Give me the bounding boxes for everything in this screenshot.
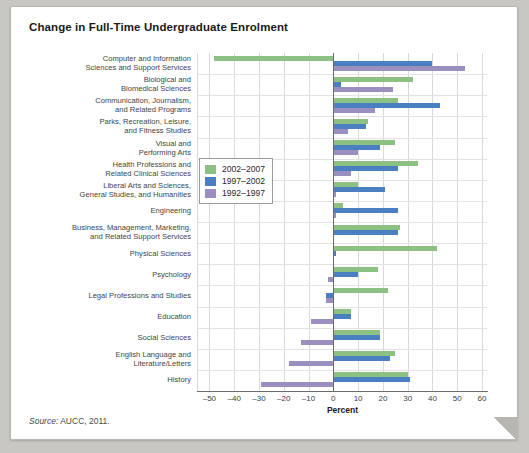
y-axis-label: History: [41, 375, 191, 384]
y-axis-label-line: Sciences and Support Services: [41, 63, 191, 72]
y-axis-label: Education: [41, 312, 191, 321]
row-separator: [197, 74, 487, 75]
y-axis-label-line: Literature/Letters: [41, 359, 191, 368]
bar: [333, 208, 397, 213]
y-axis-label-line: Health Professions and: [41, 160, 191, 169]
bar: [333, 377, 410, 382]
bar: [289, 361, 334, 366]
y-axis-label-line: Performing Arts: [41, 148, 191, 157]
row-separator: [197, 349, 487, 350]
y-axis-label-line: Business, Management, Marketing,: [41, 223, 191, 232]
y-axis-label: Computer and InformationSciences and Sup…: [41, 54, 191, 72]
y-axis-label-line: Visual and: [41, 139, 191, 148]
source-text: AUCC, 2011.: [60, 416, 109, 426]
bar: [333, 171, 350, 176]
y-axis-label: Communication, Journalism,and Related Pr…: [41, 96, 191, 114]
legend-item: 2002–2007: [205, 163, 265, 175]
row-separator: [197, 222, 487, 223]
x-tick-label: 20: [378, 394, 387, 403]
zero-axis-line: [333, 53, 334, 391]
y-axis-category-labels: Computer and InformationSciences and Sup…: [39, 53, 195, 391]
x-tick-label: 50: [453, 394, 462, 403]
y-axis-label-line: English Language and: [41, 350, 191, 359]
y-axis-label-line: Biological and: [41, 75, 191, 84]
bar: [333, 108, 375, 113]
x-tick-label: 40: [428, 394, 437, 403]
legend-swatch-icon: [205, 165, 216, 174]
x-tick-label: 60: [478, 394, 487, 403]
y-axis-label: Visual andPerforming Arts: [41, 139, 191, 157]
y-axis-label: Health Professions andRelated Clinical S…: [41, 160, 191, 178]
legend-label: 1997–2002: [222, 176, 265, 186]
y-axis-label-line: and Related Programs: [41, 105, 191, 114]
x-tick-label: –50: [203, 394, 216, 403]
row-separator: [197, 264, 487, 265]
x-tick-label: –10: [302, 394, 315, 403]
bar: [333, 356, 390, 361]
bar: [214, 56, 333, 61]
y-axis-label-line: and Related Support Services: [41, 232, 191, 241]
y-axis-label-line: Biomedical Sciences: [41, 84, 191, 93]
x-axis-title: Percent: [197, 405, 488, 415]
y-axis-label-line: Psychology: [41, 270, 191, 279]
legend-swatch-icon: [205, 189, 216, 198]
y-axis-label: Biological andBiomedical Sciences: [41, 75, 191, 93]
bar: [333, 230, 397, 235]
bar: [333, 77, 412, 82]
bar: [333, 314, 350, 319]
legend-label: 1992–1997: [222, 188, 265, 198]
row-separator: [197, 285, 487, 286]
y-axis-label: Business, Management, Marketing,and Rela…: [41, 223, 191, 241]
y-axis-label-line: Communication, Journalism,: [41, 96, 191, 105]
bar: [333, 288, 388, 293]
x-tick-label: 10: [354, 394, 363, 403]
bar: [333, 150, 358, 155]
plot-area: [197, 53, 487, 391]
row-separator: [197, 307, 487, 308]
row-separator: [197, 328, 487, 329]
x-tick-label: –20: [277, 394, 290, 403]
page-corner-fold: [491, 417, 517, 439]
y-axis-label-line: Parks, Recreation, Leisure,: [41, 117, 191, 126]
y-axis-label-line: History: [41, 375, 191, 384]
y-axis-label-line: Computer and Information: [41, 54, 191, 63]
y-axis-label: Engineering: [41, 206, 191, 215]
bar: [326, 298, 333, 303]
y-axis-label-line: Liberal Arts and Sciences,: [41, 181, 191, 190]
y-axis-label: Legal Professions and Studies: [41, 291, 191, 300]
chart-card: Change in Full-Time Undergraduate Enrolm…: [10, 6, 518, 440]
y-axis-label: Social Sciences: [41, 333, 191, 342]
bar: [301, 340, 333, 345]
y-axis-label: Psychology: [41, 270, 191, 279]
bar: [333, 272, 358, 277]
bar: [333, 87, 392, 92]
row-separator: [197, 370, 487, 371]
legend-item: 1997–2002: [205, 175, 265, 187]
row-separator: [197, 138, 487, 139]
source-label: Source:: [29, 416, 58, 426]
x-axis-line: [197, 391, 488, 392]
source-note: Source: AUCC, 2011.: [29, 416, 110, 426]
y-axis-label: Parks, Recreation, Leisure,and Fitness S…: [41, 117, 191, 135]
row-separator: [197, 95, 487, 96]
bar: [333, 335, 380, 340]
legend-label: 2002–2007: [222, 164, 265, 174]
y-axis-label: English Language andLiterature/Letters: [41, 350, 191, 368]
y-axis-label-line: General Studies, and Humanities: [41, 190, 191, 199]
legend-swatch-icon: [205, 177, 216, 186]
x-tick-label: 0: [331, 394, 335, 403]
row-separator: [197, 243, 487, 244]
bar: [333, 246, 437, 251]
y-axis-label-line: Legal Professions and Studies: [41, 291, 191, 300]
bar: [261, 382, 333, 387]
y-axis-label-line: Related Clinical Sciences: [41, 169, 191, 178]
row-separator: [197, 116, 487, 117]
x-tick-label: –40: [227, 394, 240, 403]
y-axis-label-line: Education: [41, 312, 191, 321]
y-axis-label: Physical Sciences: [41, 249, 191, 258]
bar: [333, 129, 348, 134]
legend-item: 1992–1997: [205, 187, 265, 199]
y-axis-label: Liberal Arts and Sciences,General Studie…: [41, 181, 191, 199]
bar: [333, 66, 464, 71]
bar: [311, 319, 333, 324]
